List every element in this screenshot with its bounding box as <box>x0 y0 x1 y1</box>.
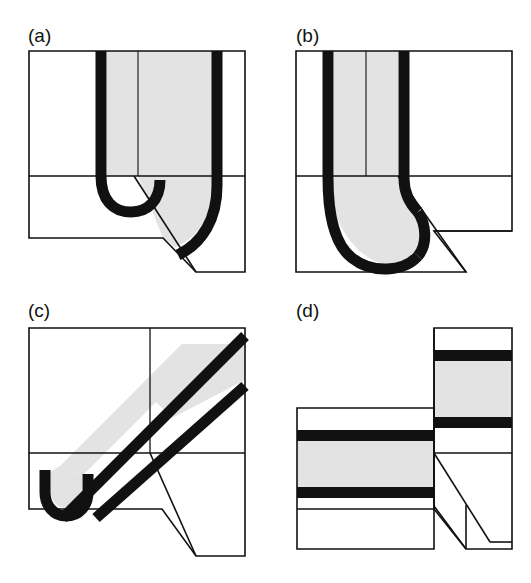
panel-b-channel-shade-left <box>334 51 366 176</box>
panel-a-channel-shade-right <box>138 51 212 176</box>
panel-d-right-lower-band <box>434 417 512 428</box>
panel-d-left-shaded-layer <box>297 440 434 488</box>
panel-d-right-upper-band <box>434 350 512 361</box>
panel-d-label: (d) <box>296 300 319 321</box>
panel-a-label: (a) <box>28 25 51 46</box>
panel-d-left-upper-band <box>297 430 434 441</box>
panel-a: (a) <box>28 25 245 272</box>
panel-b-label: (b) <box>296 25 319 46</box>
panel-a-channel-shade-left <box>107 51 138 176</box>
four-panel-schematic: (a) (b) <box>0 0 531 583</box>
panel-d-left-lower-band <box>297 487 434 498</box>
figure-container: (a) (b) <box>0 0 531 583</box>
panel-b-channel-shade-right <box>366 51 398 176</box>
panel-c-label: (c) <box>28 300 50 321</box>
panel-d-right-shaded-layer <box>434 360 512 418</box>
